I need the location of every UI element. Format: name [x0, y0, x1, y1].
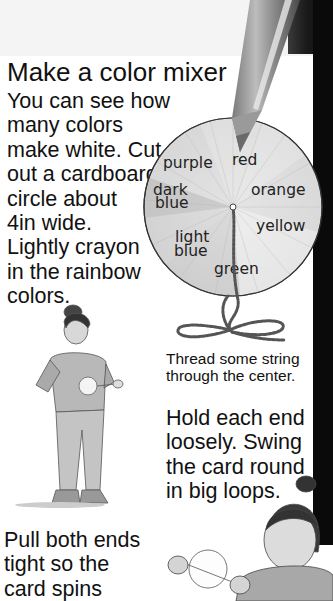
wheel-label-red: red [232, 151, 257, 169]
swing-line: the card round [166, 455, 316, 479]
wheel-label-orange: orange [251, 181, 306, 199]
caption-line: through the center. [166, 367, 316, 384]
wheel-label-dark-blue: blue [155, 194, 189, 212]
wheel-label-light-blue: blue [174, 242, 208, 260]
pull-instructions: Pull both ends tight so the card spins [4, 528, 164, 601]
wheel-label-green: green [214, 260, 259, 278]
swing-line: Hold each end [166, 406, 316, 430]
wheel-label-purple: purple [163, 154, 213, 172]
swing-instructions: Hold each end loosely. Swing the card ro… [166, 406, 316, 504]
string-caption: Thread some string through the center. [166, 350, 316, 384]
color-wheel-illustration: purple red dark blue orange yellow light… [0, 0, 333, 601]
swing-line: in big loops. [166, 479, 316, 503]
pull-line: tight so the [4, 552, 164, 576]
wheel-label-yellow: yellow [256, 217, 306, 235]
caption-line: Thread some string [166, 350, 316, 367]
swing-line: loosely. Swing [166, 430, 316, 454]
pull-line: card spins [4, 577, 164, 601]
child-standing-illustration [15, 305, 123, 508]
pull-line: Pull both ends [4, 528, 164, 552]
